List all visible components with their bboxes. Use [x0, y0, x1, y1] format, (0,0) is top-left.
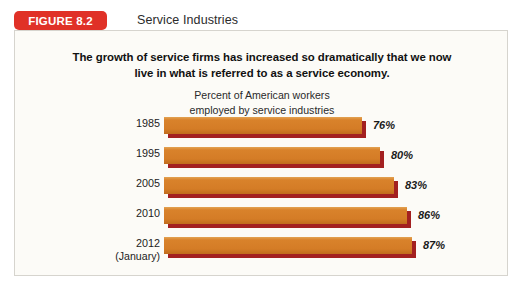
bar-value-label: 86% — [418, 209, 440, 221]
bar-face — [164, 237, 412, 254]
figure-title: Service Industries — [137, 13, 238, 27]
bar-value-label: 80% — [391, 149, 413, 161]
bar — [164, 237, 412, 260]
bar-value-label: 83% — [405, 179, 427, 191]
axis-note-line-1: Percent of American workers — [147, 88, 377, 103]
caption-line-2: live in what is referred to as a service… — [15, 65, 509, 81]
figure-header: FIGURE 8.2 Service Industries — [0, 0, 523, 32]
bar-value-label: 87% — [423, 239, 445, 251]
bar-category-label: 1985 — [65, 117, 160, 130]
bar-row: 2012(January)87% — [15, 237, 509, 267]
bar-row: 198576% — [15, 117, 509, 147]
bar-category-label: 2012(January) — [65, 237, 160, 263]
bar — [164, 177, 394, 200]
figure-caption: The growth of service firms has increase… — [15, 49, 509, 81]
figure-panel: The growth of service firms has increase… — [14, 30, 508, 276]
bar-row: 200583% — [15, 177, 509, 207]
chart-axis-note: Percent of American workers employed by … — [147, 88, 377, 117]
bar — [164, 147, 380, 170]
bar-category-sublabel: (January) — [65, 250, 160, 263]
bar-category-label: 2005 — [65, 177, 160, 190]
bar-value-label: 76% — [373, 119, 395, 131]
bar — [164, 207, 407, 230]
bar — [164, 117, 362, 140]
bar-row: 199580% — [15, 147, 509, 177]
bar-category-label: 1995 — [65, 147, 160, 160]
figure-number-badge: FIGURE 8.2 — [14, 11, 107, 30]
caption-line-1: The growth of service firms has increase… — [15, 49, 509, 65]
bar-row: 201086% — [15, 207, 509, 237]
bar-face — [164, 177, 394, 194]
bar-face — [164, 207, 407, 224]
bar-chart: 198576%199580%200583%201086%2012(January… — [15, 117, 509, 272]
bar-face — [164, 147, 380, 164]
bar-category-label: 2010 — [65, 207, 160, 220]
axis-note-line-2: employed by service industries — [147, 103, 377, 118]
bar-face — [164, 117, 362, 134]
